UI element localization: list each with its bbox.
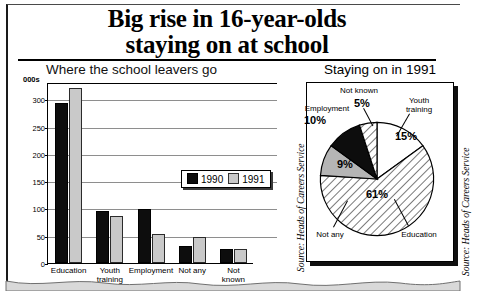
pie-label-employment: Employment (298, 104, 356, 113)
gridline (48, 209, 277, 210)
bar-chart-legend: 1990 1991 (181, 170, 271, 188)
source-note-right: Source: Heads of Careers Service (461, 147, 471, 276)
x-axis-label: Not any (178, 266, 206, 275)
y-axis-tick (45, 264, 48, 265)
pie-chart-title: Staying on in 1991 (300, 62, 460, 77)
pie-value-employment: 10% (304, 114, 326, 126)
pie-value-not-any: 9% (337, 158, 353, 170)
y-axis-tick (45, 155, 48, 156)
newspaper-clipping: Big rise in 16-year-olds staying on at s… (0, 0, 477, 301)
bar-1990-not-known (220, 249, 233, 263)
y-axis-tick (45, 128, 48, 129)
y-axis-tick-label: 150 (32, 178, 45, 187)
bar-chart-units-label: 000s (23, 75, 40, 84)
y-axis-tick (45, 209, 48, 210)
legend-item-1990: 1990 (187, 173, 223, 185)
x-axis-label: Education (51, 266, 87, 275)
bar-1990-youth-training (96, 211, 109, 263)
y-axis-tick (45, 237, 48, 238)
y-axis-tick-label: 50 (37, 232, 45, 241)
bar-1991-not-known (234, 249, 247, 263)
bar-1990-education (55, 103, 68, 263)
y-axis-tick-label: 100 (32, 205, 45, 214)
legend-label-1990: 1990 (201, 174, 223, 185)
legend-item-1991: 1991 (228, 173, 264, 185)
pie-label-not-any: Not any (304, 230, 356, 239)
gridline (48, 128, 277, 129)
gridline (48, 155, 277, 156)
y-axis-tick-label: 300 (32, 96, 45, 105)
headline-line-2: staying on at school (18, 32, 436, 61)
y-axis-tick (45, 100, 48, 101)
torn-paper-edge (0, 277, 477, 291)
headline-line-1: Big rise in 16-year-olds (108, 5, 346, 32)
pie-label-education: Education (392, 230, 446, 239)
bar-1990-not-any (179, 246, 192, 263)
page-title: Big rise in 16-year-olds staying on at s… (18, 6, 436, 61)
gridline (48, 264, 277, 265)
pie-label-not-known: Not known (330, 86, 388, 95)
pie-value-not-known: 5% (354, 97, 370, 109)
legend-swatch-1991 (228, 173, 239, 184)
pie-chart-panel: Staying on in 1991 Not known 5% Employme… (300, 62, 460, 284)
bar-chart-panel: Where the school leavers go 000s 0501001… (14, 62, 282, 282)
pie-value-education: 61% (366, 188, 388, 200)
pie-label-youth-training: Youth training (396, 96, 442, 114)
bar-1991-employment (152, 234, 165, 263)
bar-1990-employment (138, 209, 151, 263)
y-axis-tick-label: 250 (32, 123, 45, 132)
x-axis-label: Employment (129, 266, 173, 275)
y-axis-tick-label: 200 (32, 150, 45, 159)
y-axis-tick (45, 182, 48, 183)
bar-1991-education (69, 88, 82, 263)
gridline (48, 100, 277, 101)
legend-label-1991: 1991 (242, 174, 264, 185)
legend-swatch-1990 (187, 173, 198, 184)
bar-1991-not-any (193, 237, 206, 263)
bar-chart-title: Where the school leavers go (46, 62, 217, 77)
bar-1991-youth-training (110, 216, 123, 263)
